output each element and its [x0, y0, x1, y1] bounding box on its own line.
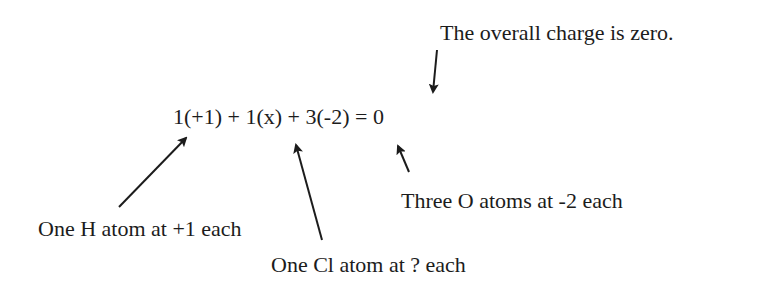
oxygen-label: Three O atoms at -2 each	[401, 190, 623, 212]
arrow-chlorine-icon	[296, 145, 322, 240]
hydrogen-label: One H atom at +1 each	[38, 218, 242, 240]
chlorine-label: One Cl atom at ? each	[271, 254, 466, 276]
arrow-hydrogen-icon	[119, 138, 186, 207]
arrow-overall-charge-icon	[433, 50, 437, 92]
overall-charge-label: The overall charge is zero.	[440, 22, 674, 44]
arrow-oxygen-icon	[398, 146, 409, 172]
equation: 1(+1) + 1(x) + 3(-2) = 0	[173, 106, 384, 128]
